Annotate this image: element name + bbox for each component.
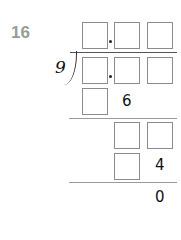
decimal-point <box>109 75 112 78</box>
remainder: 0 <box>155 190 165 205</box>
subtraction-line-2 <box>69 182 177 183</box>
step2-box-1[interactable] <box>114 122 140 149</box>
decimal-point <box>109 40 112 43</box>
division-bracket <box>64 51 77 85</box>
step1-digit: 6 <box>122 94 132 109</box>
quotient-box-3[interactable] <box>147 22 173 49</box>
step1-box[interactable] <box>82 88 108 115</box>
step3-box[interactable] <box>114 153 140 180</box>
subtraction-line-1 <box>69 118 177 119</box>
quotient-box-1[interactable] <box>82 22 108 49</box>
step2-box-2[interactable] <box>147 122 173 149</box>
division-bar <box>70 52 177 53</box>
step3-digit: 4 <box>155 158 165 173</box>
quotient-box-2[interactable] <box>114 22 140 49</box>
dividend-box-1[interactable] <box>82 57 108 84</box>
dividend-box-3[interactable] <box>147 57 173 84</box>
question-number: 16 <box>11 23 30 43</box>
dividend-box-2[interactable] <box>114 57 140 84</box>
